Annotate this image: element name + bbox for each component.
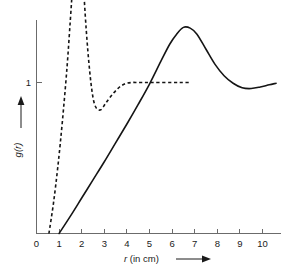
x-axis-title: r (in cm) xyxy=(124,253,159,264)
x-tick-label-1: 1 xyxy=(56,238,61,249)
x-axis-title-rest: (in cm) xyxy=(127,253,159,264)
x-axis-title-group: r (in cm) xyxy=(124,253,211,264)
y-axis-title: g(r) xyxy=(12,143,23,158)
x-tick-labels: 0 1 2 3 4 5 6 7 8 9 10 xyxy=(34,238,268,249)
x-tick-label-7: 7 xyxy=(192,238,197,249)
x-tick-label-5: 5 xyxy=(147,238,152,249)
axis-group xyxy=(37,20,282,234)
x-tick-marks xyxy=(37,229,263,234)
x-tick-label-9: 9 xyxy=(237,238,242,249)
x-tick-label-6: 6 xyxy=(169,238,174,249)
x-tick-label-0: 0 xyxy=(34,238,39,249)
x-tick-label-8: 8 xyxy=(215,238,220,249)
solid-curve xyxy=(59,27,276,234)
figure-container: 0 1 2 3 4 5 6 7 8 9 10 1 g(r) xyxy=(0,0,299,273)
radial-distribution-chart: 0 1 2 3 4 5 6 7 8 9 10 1 g(r) xyxy=(0,0,299,273)
dashed-curve xyxy=(49,0,190,234)
y-tick-label-1: 1 xyxy=(26,77,31,88)
y-axis-title-group: g(r) xyxy=(12,96,24,157)
y-tick-group: 1 xyxy=(26,77,42,88)
x-tick-label-3: 3 xyxy=(102,238,107,249)
y-axis-arrow-icon xyxy=(18,96,25,128)
curves-group xyxy=(49,0,276,234)
x-axis-arrow-icon xyxy=(176,256,211,263)
x-tick-label-2: 2 xyxy=(79,238,84,249)
x-tick-label-4: 4 xyxy=(124,238,129,249)
x-tick-label-10: 10 xyxy=(257,238,268,249)
